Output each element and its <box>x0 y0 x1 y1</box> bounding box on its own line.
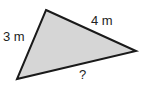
side-label-bottom-unknown: ? <box>79 68 86 81</box>
side-label-left: 3 m <box>3 30 25 43</box>
triangle-diagram <box>0 0 145 90</box>
side-label-top-right: 4 m <box>91 14 113 27</box>
triangle-shape <box>17 10 136 79</box>
